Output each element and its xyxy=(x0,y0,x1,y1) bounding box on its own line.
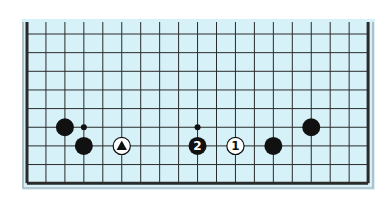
point-marker-dot xyxy=(81,124,87,130)
move-number-label: 1 xyxy=(231,139,239,153)
move-number-label: 2 xyxy=(193,139,201,153)
white-stone xyxy=(113,137,130,154)
white-stone: 1 xyxy=(227,137,244,154)
go-board-diagram: 21 xyxy=(0,0,387,203)
black-stone xyxy=(56,118,74,136)
point-marker-dot xyxy=(195,124,201,130)
black-stone: 2 xyxy=(189,137,207,155)
black-stone xyxy=(302,118,320,136)
black-stone xyxy=(75,137,93,155)
black-stone xyxy=(264,137,282,155)
